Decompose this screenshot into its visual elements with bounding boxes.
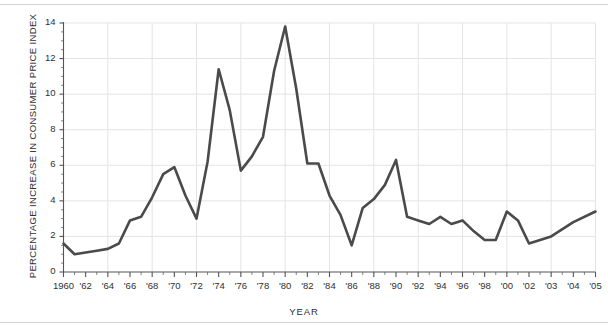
x-tick-label: '02 (517, 280, 541, 291)
x-tick-label: '78 (251, 280, 275, 291)
y-tick-label: 10 (26, 87, 56, 98)
x-tick-label: '94 (428, 280, 452, 291)
x-axis-ticks-group (64, 272, 596, 277)
x-tick-label: '90 (384, 280, 408, 291)
y-tick-label: 12 (26, 52, 56, 63)
x-tick-label: '80 (273, 280, 297, 291)
x-tick-label: '76 (229, 280, 253, 291)
x-tick-label: '74 (207, 280, 231, 291)
x-tick-label: '62 (74, 280, 98, 291)
y-axis-ticks-group (60, 23, 64, 272)
x-tick-label: '84 (318, 280, 342, 291)
y-tick-label: 4 (26, 194, 56, 205)
x-tick-label: '96 (451, 280, 475, 291)
x-tick-label: '72 (185, 280, 209, 291)
y-tick-label: 6 (26, 158, 56, 169)
x-tick-label: '70 (162, 280, 186, 291)
y-tick-label: 0 (26, 265, 56, 276)
x-tick-label: '82 (295, 280, 319, 291)
gridlines-group (64, 23, 596, 272)
y-tick-label: 2 (26, 229, 56, 240)
x-tick-label: '68 (140, 280, 164, 291)
y-tick-label: 8 (26, 123, 56, 134)
x-tick-label: '88 (362, 280, 386, 291)
x-tick-label: '03 (539, 280, 563, 291)
x-tick-label: '86 (340, 280, 364, 291)
x-tick-label: '04 (561, 280, 585, 291)
x-tick-label: '05 (584, 280, 608, 291)
inflation-line-chart-figure: PERCENTAGE INCREASE IN CONSUMER PRICE IN… (0, 0, 608, 333)
x-tick-label: '64 (96, 280, 120, 291)
x-tick-label: '92 (406, 280, 430, 291)
x-tick-label: '66 (118, 280, 142, 291)
x-tick-label: '00 (495, 280, 519, 291)
x-tick-label: '98 (473, 280, 497, 291)
y-tick-label: 14 (26, 16, 56, 27)
